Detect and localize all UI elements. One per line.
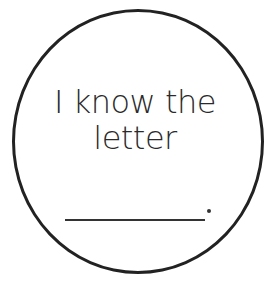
badge-text: I know the letter xyxy=(0,84,270,156)
fill-in-blank-line xyxy=(65,219,205,221)
period-dot xyxy=(207,209,211,213)
badge-text-line-2: letter xyxy=(0,120,270,156)
badge-text-line-1: I know the xyxy=(0,84,270,120)
